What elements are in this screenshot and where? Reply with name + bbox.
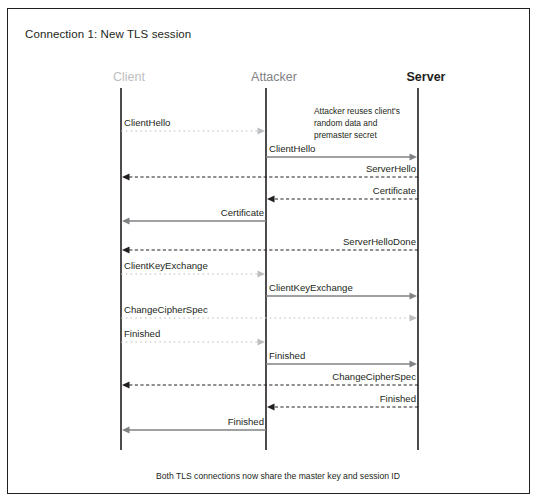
tls-sequence-diagram: Connection 1: New TLS session Client Att… bbox=[0, 0, 539, 503]
message-arrow-11 bbox=[122, 382, 418, 389]
message-label-5: ServerHelloDone bbox=[343, 237, 416, 247]
footer-note: Both TLS connections now share the maste… bbox=[156, 471, 400, 481]
message-arrow-5 bbox=[122, 247, 418, 254]
attacker-annotation: Attacker reuses client's random data and… bbox=[314, 106, 400, 142]
message-arrow-13 bbox=[122, 427, 266, 434]
message-arrow-6 bbox=[121, 271, 265, 278]
message-label-10: Finished bbox=[269, 351, 305, 361]
message-label-11: ChangeCipherSpec bbox=[332, 372, 416, 382]
attacker-annotation-line-1: Attacker reuses client's bbox=[314, 106, 400, 118]
message-label-7: ClientKeyExchange bbox=[269, 283, 353, 293]
message-arrow-3 bbox=[267, 196, 418, 203]
message-arrow-0 bbox=[121, 128, 265, 135]
message-arrow-2 bbox=[122, 174, 418, 181]
message-label-12: Finished bbox=[380, 394, 416, 404]
message-label-0: ClientHello bbox=[124, 118, 170, 128]
attacker-annotation-line-2: random data and bbox=[314, 118, 400, 130]
message-label-1: ClientHello bbox=[269, 144, 315, 154]
message-label-4: Certificate bbox=[221, 208, 264, 218]
message-label-13: Finished bbox=[228, 417, 264, 427]
message-arrow-12 bbox=[267, 404, 418, 411]
message-arrow-1 bbox=[266, 154, 417, 161]
message-label-2: ServerHello bbox=[366, 164, 416, 174]
message-arrow-4 bbox=[122, 218, 266, 225]
message-arrow-10 bbox=[266, 361, 417, 368]
message-label-3: Certificate bbox=[373, 186, 416, 196]
diagram-frame: Connection 1: New TLS session Client Att… bbox=[7, 8, 530, 494]
sequence-arrows-layer bbox=[8, 9, 531, 495]
message-label-8: ChangeCipherSpec bbox=[124, 305, 208, 315]
message-arrow-9 bbox=[121, 339, 265, 346]
message-label-6: ClientKeyExchange bbox=[124, 261, 208, 271]
message-arrow-8 bbox=[121, 315, 417, 322]
attacker-annotation-line-3: premaster secret bbox=[314, 130, 400, 142]
message-label-9: Finished bbox=[124, 329, 160, 339]
message-arrow-7 bbox=[266, 293, 417, 300]
